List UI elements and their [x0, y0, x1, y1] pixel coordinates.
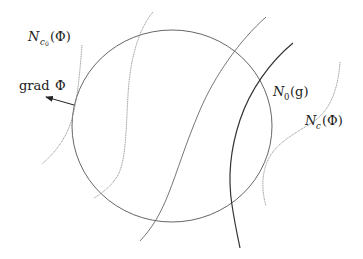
svg-text:N: N — [27, 29, 40, 44]
svg-text:Φ: Φ — [55, 78, 66, 93]
label-grad: grad Φ — [19, 78, 66, 93]
svg-text:(g): (g) — [290, 84, 308, 99]
level-curve-n-c0 — [42, 45, 82, 164]
label-n-0-g: N 0 (g) — [272, 84, 308, 102]
level-curve-2 — [94, 12, 153, 198]
circle — [72, 30, 272, 222]
svg-text:c: c — [316, 121, 321, 131]
svg-text:0: 0 — [45, 40, 49, 47]
grad-arrow — [46, 97, 74, 105]
svg-text:grad: grad — [19, 78, 50, 93]
level-curve-3 — [140, 17, 266, 241]
diagram-canvas: N c 0 (Φ) grad Φ N 0 (g) N c (Φ) — [0, 0, 363, 259]
label-n-c0: N c 0 (Φ) — [27, 29, 71, 47]
svg-text:(Φ): (Φ) — [50, 29, 71, 44]
label-n-c: N c (Φ) — [304, 113, 343, 131]
svg-text:0: 0 — [284, 92, 289, 102]
svg-text:(Φ): (Φ) — [322, 113, 343, 128]
curve-n-0-g — [230, 43, 293, 248]
